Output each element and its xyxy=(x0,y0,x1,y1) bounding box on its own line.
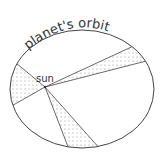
sun-point xyxy=(44,86,46,88)
diagram-title: planet's orbit xyxy=(21,15,112,52)
orbit-diagram: planet's orbit sun xyxy=(0,0,161,156)
sun-label: sun xyxy=(36,73,54,84)
sector-bottom xyxy=(45,87,101,152)
sector-right xyxy=(45,43,158,87)
orbit-svg: planet's orbit sun xyxy=(0,0,161,156)
